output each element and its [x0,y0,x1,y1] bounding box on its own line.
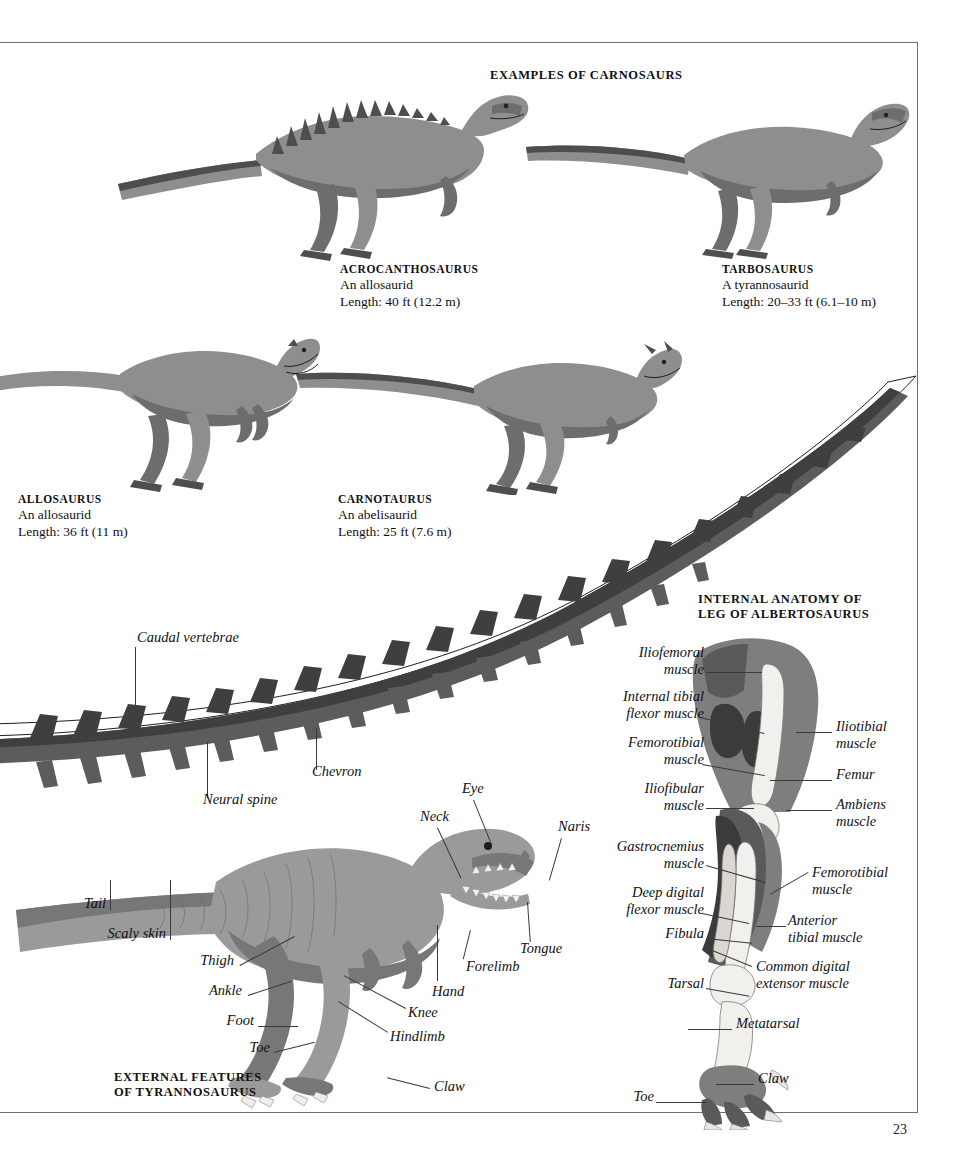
label-line1: Ambiens [836,796,886,812]
leader-iliotibial [796,732,832,733]
label-line1: Iliofibular [644,780,704,796]
label-scaly-skin: Scaly skin [46,925,166,942]
external-title-line1: EXTERNAL FEATURES [114,1070,262,1084]
label-line2: flexor muscle [626,705,704,721]
book-page: EXAMPLES OF CARNOSAURS [0,0,954,1157]
leader-neural-spine [207,742,208,798]
label-neck: Neck [420,808,449,825]
label-iliofemoral-muscle: Iliofemoral muscle [556,644,704,678]
label-forelimb: Forelimb [466,958,519,975]
label-line1: Deep digital [632,884,704,900]
label-femorotibial-muscle-left: Femorotibial muscle [556,734,704,768]
tyrannosaurus-external-illustration [10,810,540,1110]
label-ambiens-muscle: Ambiens muscle [836,796,886,830]
leader-claw-leg [716,1084,754,1085]
label-line1: Femorotibial [628,734,704,750]
label-common-digital-extensor-muscle: Common digital extensor muscle [756,958,850,992]
leader-femur [770,780,832,781]
label-line2: muscle [664,751,704,767]
leader-ambiens [786,810,832,811]
label-ankle: Ankle [168,982,242,999]
page-border-top [0,42,918,43]
label-line1: Iliofemoral [639,644,704,660]
external-title-line2: OF TYRANNOSAURUS [114,1085,257,1099]
label-hindlimb: Hindlimb [390,1028,445,1045]
label-line1: Iliotibial [836,718,887,734]
internal-title-line2: LEG OF ALBERTOSAURUS [698,607,869,621]
label-claw: Claw [434,1078,465,1095]
leader-metatarsal [688,1029,732,1030]
specimen-length: Length: 40 ft (12.2 m) [340,294,478,311]
caption-tarbosaurus: TARBOSAURUS A tyrannosaurid Length: 20–3… [722,262,876,310]
specimen-length: Length: 20–33 ft (6.1–10 m) [722,294,876,311]
label-line1: Internal tibial [623,688,704,704]
label-line1: Anterior [788,912,837,928]
label-iliotibial-muscle: Iliotibial muscle [836,718,887,752]
label-hand: Hand [432,983,464,1000]
label-toe-leg: Toe [596,1088,654,1105]
label-tongue: Tongue [520,940,562,957]
label-line2: flexor muscle [626,901,704,917]
label-tail: Tail [50,895,106,912]
internal-title-line1: INTERNAL ANATOMY OF [698,592,862,606]
label-line2: extensor muscle [756,975,849,991]
label-femorotibial-muscle-right: Femorotibial muscle [812,864,888,898]
leader-anterior-tibial [756,926,786,927]
label-anterior-tibial-muscle: Anterior tibial muscle [788,912,863,946]
acrocanthosaurus-illustration [110,72,530,262]
label-metatarsal: Metatarsal [736,1015,800,1032]
specimen-name: TARBOSAURUS [722,262,876,277]
leader-hand [437,925,438,981]
label-deep-digital-flexor-muscle: Deep digital flexor muscle [556,884,704,918]
label-thigh: Thigh [160,952,234,969]
label-toe: Toe [196,1039,270,1056]
label-eye: Eye [462,780,484,797]
label-line2: muscle [664,661,704,677]
leader-naris [549,838,562,881]
specimen-group: A tyrannosaurid [722,277,876,294]
section-title-internal-anatomy: INTERNAL ANATOMY OF LEG OF ALBERTOSAURUS [698,592,928,622]
label-line2: muscle [836,735,876,751]
page-number: 23 [880,1122,920,1138]
leader-scaly-skin [170,880,171,940]
label-femur: Femur [836,766,875,783]
label-line2: muscle [812,881,852,897]
label-chevron: Chevron [312,763,361,780]
label-claw-leg: Claw [758,1070,789,1087]
label-fibula: Fibula [586,925,704,942]
label-line2: muscle [836,813,876,829]
leader-iliofibular [706,808,754,809]
label-line2: muscle [664,797,704,813]
leader-foot [258,1026,298,1027]
label-line1: Gastrocnemius [617,838,704,854]
label-line1: Common digital [756,958,850,974]
leader-tail [110,880,111,910]
label-gastrocnemius-muscle: Gastrocnemius muscle [566,838,704,872]
section-title-external-features: EXTERNAL FEATURES OF TYRANNOSAURUS [114,1070,364,1100]
label-line2: muscle [664,855,704,871]
label-internal-tibial-flexor-muscle: Internal tibial flexor muscle [540,688,704,722]
specimen-name: ACROCANTHOSAURUS [340,262,478,277]
caption-acrocanthosaurus: ACROCANTHOSAURUS An allosaurid Length: 4… [340,262,478,310]
label-neural-spine: Neural spine [203,791,278,808]
leader-toe-leg [656,1102,706,1103]
label-tarsal: Tarsal [586,975,704,992]
label-iliofibular-muscle: Iliofibular muscle [556,780,704,814]
label-knee: Knee [408,1004,438,1021]
label-line1: Femorotibial [812,864,888,880]
label-naris: Naris [558,818,590,835]
label-foot: Foot [180,1012,254,1029]
leader-iliofemoral [706,672,762,673]
label-caudal-vertebrae: Caudal vertebrae [137,629,239,646]
label-line2: tibial muscle [788,929,863,945]
specimen-group: An allosaurid [340,277,478,294]
leader-caudal-vertebrae [135,647,136,705]
tarbosaurus-illustration [520,85,910,260]
